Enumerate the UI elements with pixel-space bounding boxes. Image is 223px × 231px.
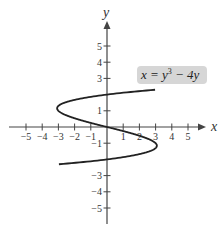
y-tick-label: 4: [97, 57, 102, 68]
graph-plot: −5−4−3−2−1123455431−1−3−4−5 x y: [0, 0, 223, 231]
y-tick-label: 5: [97, 41, 102, 52]
x-tick-label: 3: [153, 131, 158, 142]
y-axis-label: y: [101, 5, 110, 20]
x-tick-label: 4: [169, 131, 174, 142]
y-tick-label: −4: [91, 186, 102, 197]
x-axis-arrow-icon: [198, 124, 206, 131]
x-tick-label: −4: [37, 131, 48, 142]
x-tick-label: 1: [121, 131, 126, 142]
y-tick-label: 1: [97, 105, 102, 116]
equation-label: x = y3 − 4y: [141, 67, 199, 83]
x-axis-label: x: [210, 119, 218, 134]
y-tick-label: 3: [97, 73, 102, 84]
axes: −5−4−3−2−1123455431−1−3−4−5: [9, 21, 206, 224]
x-tick-label: −2: [69, 131, 80, 142]
y-tick-label: −3: [91, 170, 102, 181]
y-tick-label: −1: [91, 138, 102, 149]
x-tick-label: 5: [186, 131, 191, 142]
y-axis-arrow-icon: [104, 21, 111, 29]
x-tick-label: −3: [53, 131, 64, 142]
x-tick-label: −5: [21, 131, 32, 142]
y-tick-label: −5: [91, 203, 102, 214]
